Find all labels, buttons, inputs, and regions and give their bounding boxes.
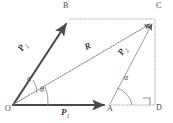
point-label-o: O [5, 105, 11, 113]
point-label-b: B [63, 2, 68, 10]
angle-label-alpha-at-a: α [124, 74, 128, 82]
point-label-d: D [156, 104, 162, 112]
angle-arc-theta-at-o [45, 87, 48, 105]
figure-canvas [0, 0, 173, 123]
angle-arc-alpha-at-a [117, 88, 132, 105]
angle-label-theta-at-o: θ [40, 86, 44, 94]
point-label-c: C [156, 2, 161, 10]
vector-parallelogram-figure: O A B C D P2 P1 R P2 α θ α [0, 0, 173, 123]
vector-label-p1-oa-sub: 1 [67, 113, 70, 119]
point-label-a: A [107, 105, 113, 113]
angle-label-alpha-at-o: α [27, 75, 31, 83]
vector-r-oc [14, 24, 150, 104]
right-angle-at-d-icon [143, 98, 150, 105]
vector-label-p1-oa: P1 [61, 108, 70, 119]
vector-p2-ac [110, 24, 152, 104]
